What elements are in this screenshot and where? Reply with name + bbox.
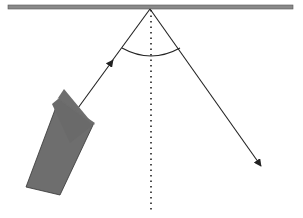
flashlight-icon — [26, 87, 95, 195]
incoming-beam-line-upper — [112, 9, 150, 61]
reflection-diagram — [0, 0, 303, 218]
reflected-beam-line — [150, 9, 261, 166]
mirror-surface — [8, 5, 293, 9]
incoming-beam-line — [78, 60, 113, 108]
